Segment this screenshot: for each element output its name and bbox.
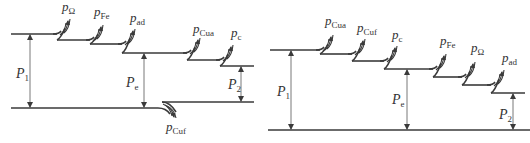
loss-label-c: pc [391,27,403,44]
loss-branch-Ω [458,62,475,85]
loss-branch-ad [118,29,135,53]
loss-branch-Cuf [348,39,365,61]
loss-label-Cua: pCua [192,21,214,38]
loss-branch-ad [487,70,504,93]
loss-branch-Cuf [158,102,176,118]
loss-branch-Cua [316,35,333,54]
loss-label-Fe: pFe [439,33,456,50]
generator-power-flow-diagram: pΩpFepadpCuapcpCufP1PeP2 [11,0,254,136]
loss-label-Cua: pCua [324,13,346,30]
power-label-P1: P1 [15,66,29,83]
power-label-P2: P2 [227,77,241,94]
loss-label-Ω: pΩ [470,40,485,57]
loss-branch-c [380,46,397,69]
loss-branch-Cua [183,38,200,60]
power-label-Pe: Pe [391,92,405,109]
loss-branch-Fe [86,25,103,44]
loss-branch-Ω [53,19,70,40]
power-label-Pe: Pe [125,75,139,92]
loss-branch-c [216,45,233,66]
loss-label-Ω: pΩ [61,0,76,16]
loss-label-Cuf: pCuf [165,119,186,136]
power-label-P2: P2 [498,107,512,124]
loss-label-ad: pad [129,10,145,27]
loss-label-ad: pad [501,50,517,67]
loss-label-Fe: pFe [93,4,110,21]
loss-branch-Fe [429,54,446,77]
loss-label-Cuf: pCuf [356,20,377,37]
power-label-P1: P1 [276,84,290,101]
power-flow-diagrams: pΩpFepadpCuapcpCufP1PeP2 pCuapCufpcpFepΩ… [0,0,530,143]
motor-power-flow-diagram: pCuapCufpcpFepΩpadP1PeP2 [268,13,530,130]
loss-label-c: pc [230,25,242,42]
